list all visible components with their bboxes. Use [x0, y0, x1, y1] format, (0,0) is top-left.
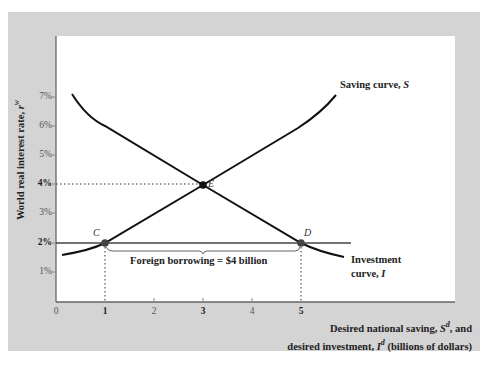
y-tick-2: 2% [12, 237, 52, 247]
point-d-label: D [304, 227, 311, 238]
x-tick-4: 4 [242, 306, 262, 316]
x-axis-title: Desired national saving, Sd, and desired… [287, 318, 472, 353]
point-e-marker [199, 181, 207, 189]
point-e-label: E [208, 178, 214, 189]
x-tick-3: 3 [193, 306, 213, 316]
point-d-marker [297, 239, 305, 247]
y-tick-4: 4% [12, 178, 52, 188]
x-tick-5: 5 [291, 306, 311, 316]
saving-curve [62, 95, 336, 255]
x-tick-0: 0 [46, 306, 66, 316]
y-tick-6: 6% [12, 120, 52, 130]
y-axis-title-wrap: World real interest rate, rw [4, 60, 34, 260]
y-tick-1: 1% [12, 266, 52, 276]
foreign-borrowing-label: Foreign borrowing = $4 billion [130, 255, 267, 266]
y-axis-title: World real interest rate, rw [12, 100, 26, 220]
saving-curve-label: Saving curve, S [340, 79, 409, 90]
y-tick-3: 3% [12, 207, 52, 217]
point-c-marker [101, 239, 109, 247]
x-tick-1: 1 [95, 306, 115, 316]
y-tick-5: 5% [12, 149, 52, 159]
point-c-label: C [93, 227, 100, 238]
x-tick-2: 2 [144, 306, 164, 316]
investment-curve-label: Investmentcurve, I [351, 253, 401, 281]
y-tick-7: 7% [12, 91, 52, 101]
foreign-borrowing-brace [106, 247, 300, 254]
